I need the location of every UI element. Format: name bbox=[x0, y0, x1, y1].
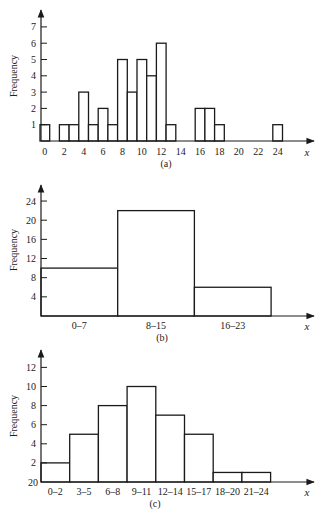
histogram-bar bbox=[98, 406, 127, 482]
y-tick-label: 1 bbox=[31, 119, 36, 130]
x-axis-label: x bbox=[304, 486, 310, 498]
histogram-bar bbox=[70, 434, 99, 482]
histogram-b: 48121620240–78–1516–23xFrequency(b) bbox=[8, 185, 314, 344]
y-tick-label: 8 bbox=[31, 400, 36, 411]
x-tick-label: 8 bbox=[120, 146, 125, 157]
y-tick-label: 3 bbox=[31, 87, 36, 98]
x-tick-label: 16 bbox=[195, 146, 205, 157]
x-tick-label: 2 bbox=[62, 146, 67, 157]
histogram-bar bbox=[118, 60, 128, 142]
histogram-bar bbox=[127, 92, 137, 141]
x-tick-label: 18 bbox=[214, 146, 224, 157]
histogram-bar bbox=[273, 125, 283, 141]
x-category-label: 12–14 bbox=[158, 486, 183, 497]
x-category-label: 0–2 bbox=[48, 486, 63, 497]
x-category-label: 8–15 bbox=[146, 320, 166, 331]
histogram-bar bbox=[156, 43, 166, 141]
y-tick-label: 24 bbox=[26, 196, 36, 207]
x-tick-label: 20 bbox=[234, 146, 244, 157]
y-tick-label: 10 bbox=[26, 381, 36, 392]
y-tick-label: 12 bbox=[26, 362, 36, 373]
histogram-bar bbox=[59, 125, 69, 141]
y-tick-label: 20 bbox=[26, 215, 36, 226]
x-tick-label: 0 bbox=[42, 146, 47, 157]
x-category-label: 16–23 bbox=[220, 320, 245, 331]
histogram-bar bbox=[194, 287, 271, 316]
y-tick-label: 16 bbox=[26, 234, 36, 245]
histogram-bar bbox=[166, 125, 176, 141]
y-tick-label: 5 bbox=[31, 54, 36, 65]
x-category-label: 9–11 bbox=[132, 486, 152, 497]
y-tick-label: 2 bbox=[31, 103, 36, 114]
x-tick-label: 10 bbox=[137, 146, 147, 157]
histogram-bar bbox=[118, 211, 195, 316]
x-axis-label: x bbox=[304, 146, 310, 158]
panel-caption: (c) bbox=[149, 498, 160, 510]
histogram-bar bbox=[213, 472, 242, 482]
histogram-bar bbox=[89, 125, 99, 141]
histogram-bar bbox=[242, 472, 271, 482]
y-tick-label: 4 bbox=[31, 70, 36, 81]
histogram-bar bbox=[215, 125, 225, 141]
x-tick-label: 4 bbox=[81, 146, 86, 157]
x-category-label: 6–8 bbox=[105, 486, 120, 497]
y-tick-label: 4 bbox=[31, 291, 36, 302]
histogram-a: 1234567024681012141618202224xFrequency(a… bbox=[8, 10, 314, 170]
histogram-bar bbox=[98, 108, 108, 141]
y-axis-title: Frequency bbox=[8, 395, 19, 437]
y-axis-title: Frequency bbox=[8, 229, 19, 271]
x-tick-label: 12 bbox=[156, 146, 166, 157]
y-tick-label: 4 bbox=[31, 438, 36, 449]
histogram-figure: 1234567024681012141618202224xFrequency(a… bbox=[0, 0, 323, 517]
x-category-label: 21–24 bbox=[244, 486, 269, 497]
x-category-label: 3–5 bbox=[77, 486, 92, 497]
histogram-bar bbox=[156, 415, 185, 482]
x-tick-label: 24 bbox=[273, 146, 283, 157]
histogram-bar bbox=[147, 76, 157, 141]
x-axis-label: x bbox=[304, 320, 310, 332]
histogram-bar bbox=[41, 268, 118, 316]
y-tick-label: 12 bbox=[26, 253, 36, 264]
y-tick-label-base: 20 bbox=[28, 477, 38, 488]
histogram-bar bbox=[108, 125, 118, 141]
histogram-bar bbox=[41, 463, 70, 482]
histogram-c: 24681012200–23–56–89–1112–1415–1718–2021… bbox=[8, 350, 314, 510]
x-category-label: 15–17 bbox=[186, 486, 211, 497]
y-tick-label: 2 bbox=[31, 457, 36, 468]
panel-caption: (a) bbox=[160, 158, 171, 170]
y-axis-title: Frequency bbox=[8, 55, 19, 97]
y-tick-label: 6 bbox=[31, 419, 36, 430]
histogram-bar bbox=[69, 125, 79, 141]
y-tick-label: 7 bbox=[31, 21, 36, 32]
x-tick-label: 22 bbox=[253, 146, 263, 157]
histogram-bar bbox=[79, 92, 89, 141]
histogram-bar bbox=[127, 387, 156, 483]
y-tick-label: 8 bbox=[31, 272, 36, 283]
panel-caption: (b) bbox=[156, 332, 168, 344]
histogram-bar bbox=[185, 434, 214, 482]
histogram-bar bbox=[137, 60, 147, 142]
x-category-label: 0–7 bbox=[72, 320, 87, 331]
histogram-bar bbox=[195, 108, 205, 141]
x-category-label: 18–20 bbox=[215, 486, 240, 497]
x-tick-label: 6 bbox=[101, 146, 106, 157]
x-tick-label: 14 bbox=[176, 146, 186, 157]
histogram-bar bbox=[205, 108, 215, 141]
y-tick-label: 6 bbox=[31, 38, 36, 49]
